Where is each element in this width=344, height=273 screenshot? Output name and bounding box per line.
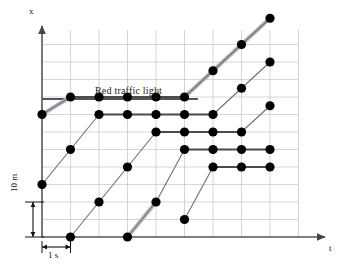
trajectory-segment-moving <box>213 88 242 114</box>
data-point-dot <box>180 110 189 119</box>
scalebar-v-arrow-bottom <box>31 232 36 237</box>
data-point-dot <box>208 66 217 75</box>
data-point-dot <box>237 84 246 93</box>
scalebar-h-arrow-left <box>42 245 47 250</box>
data-point-dot <box>151 197 160 206</box>
trajectory-segment-moving <box>156 150 185 203</box>
data-point-dot <box>123 232 132 241</box>
data-point-dot <box>265 57 274 66</box>
data-point-dot <box>151 127 160 136</box>
x-axis-label: t <box>329 243 332 253</box>
data-point-dot <box>265 162 274 171</box>
data-point-dot <box>123 110 132 119</box>
trajectory-segment-moving <box>242 62 271 88</box>
data-point-dot <box>208 127 217 136</box>
data-point-dot <box>180 127 189 136</box>
data-point-dot <box>265 145 274 154</box>
data-point-dot <box>180 92 189 101</box>
data-point-dot <box>180 215 189 224</box>
scalebar-label-1s: 1 s <box>48 250 58 260</box>
trajectory-segment-moving <box>242 106 271 132</box>
data-point-dot <box>208 145 217 154</box>
plot-canvas <box>0 0 344 273</box>
data-point-dot <box>265 14 274 23</box>
scalebar-v-arrow-top <box>31 202 36 207</box>
trajectory-segment-moving <box>185 71 214 97</box>
trajectory-segment-moving <box>185 167 214 220</box>
scale-bars <box>25 202 71 253</box>
grid-lines <box>42 30 299 237</box>
data-point-dot <box>66 92 75 101</box>
trajectory-segment-moving <box>213 45 242 71</box>
data-point-dot <box>180 145 189 154</box>
data-point-dot <box>237 145 246 154</box>
data-point-dot <box>237 162 246 171</box>
data-point-dot <box>208 110 217 119</box>
data-point-dot <box>94 197 103 206</box>
data-point-dot <box>151 110 160 119</box>
y-axis-label: x <box>29 6 34 16</box>
scalebar-label-10m: 10 m <box>9 174 19 192</box>
trajectory-segment-moving <box>242 18 271 44</box>
data-point-dot <box>37 110 46 119</box>
data-point-dot <box>94 110 103 119</box>
data-point-dot <box>237 40 246 49</box>
scalebar-h-arrow-right <box>66 245 71 250</box>
data-point-dot <box>208 162 217 171</box>
position-time-diagram: x t Red traffic light 1 s 10 m <box>0 0 344 273</box>
data-point-dot <box>37 180 46 189</box>
red-traffic-light-label: Red traffic light <box>95 85 162 96</box>
data-point-dot <box>237 127 246 136</box>
data-point-dot <box>265 101 274 110</box>
data-point-dot <box>66 145 75 154</box>
data-point-dot <box>123 162 132 171</box>
